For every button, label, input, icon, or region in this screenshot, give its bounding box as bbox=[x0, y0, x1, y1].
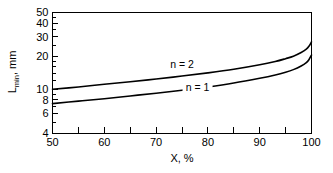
x-tick-label-60: 60 bbox=[98, 136, 110, 148]
y-tick-label-8: 8 bbox=[42, 94, 48, 106]
y-axis-title-subscript: min bbox=[12, 75, 21, 87]
x-tick-label-100: 100 bbox=[302, 136, 320, 148]
y-tick-label-6: 6 bbox=[42, 107, 48, 119]
y-axis-title-unit: , mm bbox=[6, 51, 18, 75]
y-tick-label-30: 30 bbox=[36, 31, 48, 43]
x-tick-label-50: 50 bbox=[46, 136, 58, 148]
chart-container: 4681020304050 5060708090100 n = 2n = 1 X… bbox=[0, 0, 333, 173]
x-tick-label-70: 70 bbox=[150, 136, 162, 148]
y-tick-label-40: 40 bbox=[36, 17, 48, 29]
x-axis-title: X, % bbox=[170, 152, 193, 164]
y-tick-label-50: 50 bbox=[36, 6, 48, 18]
x-tick-label-90: 90 bbox=[254, 136, 266, 148]
log-line-chart: 4681020304050 5060708090100 n = 2n = 1 X… bbox=[0, 0, 333, 173]
y-tick-label-10: 10 bbox=[36, 83, 48, 95]
series-label-n-2: n = 2 bbox=[170, 58, 194, 70]
y-tick-label-20: 20 bbox=[36, 50, 48, 62]
x-tick-label-80: 80 bbox=[202, 136, 214, 148]
series-label-n-1: n = 1 bbox=[186, 81, 210, 93]
